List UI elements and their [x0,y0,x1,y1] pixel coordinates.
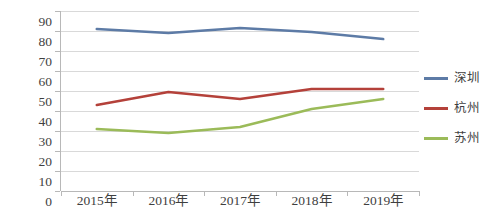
y-tick-mark [55,91,60,92]
x-tick-label: 2019年 [363,194,403,208]
x-tick-label: 2016年 [148,194,188,208]
x-tick-label: 2018年 [292,194,332,208]
legend-swatch-icon [424,107,448,110]
y-tick-mark [55,111,60,112]
x-tick-mark [133,191,134,196]
plot-area [61,11,419,191]
y-tick-mark [55,171,60,172]
y-tick-mark [55,31,60,32]
y-tick-label: 20 [0,155,52,169]
y-tick-label: 70 [0,55,52,69]
x-tick-mark [276,191,277,196]
chart-legend: 深圳杭州苏州 [424,68,483,158]
y-tick-label: 40 [0,115,52,129]
line-chart: 0102030405060708090 2015年2016年2017年2018年… [0,0,483,221]
y-tick-mark [55,151,60,152]
x-tick-mark [61,191,62,196]
series-line [97,89,383,105]
legend-label: 杭州 [454,102,480,115]
y-tick-mark [55,11,60,12]
legend-swatch-icon [424,137,448,140]
y-tick-label: 0 [0,195,52,209]
series-line [97,28,383,39]
y-tick-mark [55,191,60,192]
legend-item[interactable]: 深圳 [424,68,483,89]
y-tick-label: 80 [0,35,52,49]
y-tick-mark [55,51,60,52]
x-axis: 2015年2016年2017年2018年2019年 [61,194,419,218]
x-tick-mark [347,191,348,196]
y-tick-mark [55,131,60,132]
x-tick-mark [204,191,205,196]
legend-item[interactable]: 苏州 [424,128,483,149]
x-tick-label: 2017年 [220,194,260,208]
y-tick-label: 50 [0,95,52,109]
y-tick-label: 10 [0,175,52,189]
x-tick-label: 2015年 [77,194,117,208]
x-tick-mark [419,191,420,196]
legend-label: 深圳 [454,72,480,85]
y-tick-mark [55,71,60,72]
legend-item[interactable]: 杭州 [424,98,483,119]
y-tick-label: 60 [0,75,52,89]
y-tick-label: 30 [0,135,52,149]
y-tick-label: 90 [0,15,52,29]
y-axis: 0102030405060708090 [0,11,52,191]
series-line [97,99,383,133]
legend-label: 苏州 [454,132,480,145]
series-lines [61,11,419,191]
legend-swatch-icon [424,77,448,80]
